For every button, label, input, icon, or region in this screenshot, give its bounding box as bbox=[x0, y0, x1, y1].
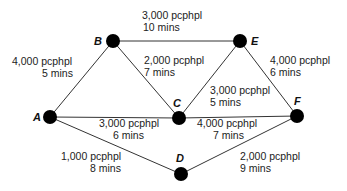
node-label-e: E bbox=[251, 35, 259, 47]
edge-label-b-e-time: 10 mins bbox=[143, 21, 180, 33]
edge-b-c bbox=[113, 41, 179, 118]
node-d bbox=[174, 167, 188, 181]
edge-a-b bbox=[50, 41, 113, 117]
edge-label-c-f-time: 7 mins bbox=[213, 129, 244, 141]
edge-label-d-f-capacity: 2,000 pcphpl bbox=[240, 150, 300, 162]
edge-label-e-c-capacity: 3,000 pcphpl bbox=[210, 84, 270, 96]
edge-label-a-d-capacity: 1,000 pcphpl bbox=[61, 150, 121, 162]
node-f bbox=[290, 109, 304, 123]
edge-label-b-e-capacity: 3,000 pcphpl bbox=[142, 9, 202, 21]
node-label-f: F bbox=[294, 95, 301, 107]
edge-label-e-f-capacity: 4,000 pcphpl bbox=[270, 54, 330, 66]
edge-label-e-c-time: 5 mins bbox=[210, 96, 241, 108]
node-c bbox=[172, 111, 186, 125]
edge-label-a-d-time: 8 mins bbox=[90, 162, 121, 174]
node-b bbox=[106, 34, 120, 48]
edge-label-a-c-capacity: 3,000 pcphpl bbox=[99, 117, 159, 129]
node-e bbox=[233, 34, 247, 48]
node-label-c: C bbox=[173, 97, 182, 109]
edge-label-a-b-capacity: 4,000 pcphpl bbox=[12, 55, 72, 67]
edge-label-b-c-time: 7 mins bbox=[144, 66, 175, 78]
node-a bbox=[43, 110, 57, 124]
edge-e-f bbox=[240, 41, 297, 116]
edge-label-b-c-capacity: 2,000 pcphpl bbox=[144, 54, 204, 66]
node-label-b: B bbox=[94, 35, 102, 47]
network-diagram: A B C D E F 4,000 pcphpl 5 mins 3,000 pc… bbox=[0, 0, 347, 191]
edge-label-a-b-time: 5 mins bbox=[42, 67, 73, 79]
edge-label-c-f-capacity: 4,000 pcphpl bbox=[197, 117, 257, 129]
edge-label-e-f-time: 6 mins bbox=[270, 66, 301, 78]
edge-label-a-c-time: 6 mins bbox=[113, 129, 144, 141]
node-label-a: A bbox=[32, 111, 41, 123]
node-label-d: D bbox=[176, 152, 184, 164]
edge-label-d-f-time: 9 mins bbox=[240, 162, 271, 174]
